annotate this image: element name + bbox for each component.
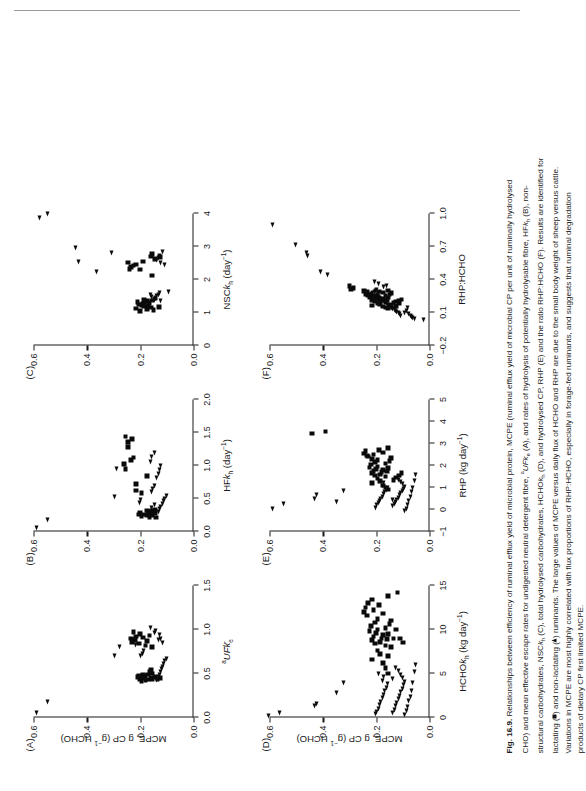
data-point-non-lactating <box>410 680 414 685</box>
y-tick-label: 0.2 <box>371 539 381 552</box>
data-point-non-lactating <box>390 676 394 681</box>
data-point-non-lactating <box>141 648 145 653</box>
figure-caption: Fig. 16.9. Relationships between efficie… <box>503 53 586 753</box>
rotated-figure: (A)0.00.20.40.60.00.51.01.5aUF̄k̄eMCPE, … <box>17 20 517 771</box>
data-point-non-lactating <box>270 506 274 511</box>
x-tick-label: 1.0 <box>201 623 211 636</box>
x-tick-label: 2 <box>201 276 211 281</box>
x-tick <box>429 344 434 345</box>
y-tick-label: 0.2 <box>371 353 381 366</box>
x-tick-label: 0.5 <box>201 667 211 680</box>
y-tick-label: 0.6 <box>28 353 38 366</box>
data-point-non-lactating <box>160 640 164 645</box>
x-axis-label-b: HFkh (day−1) <box>219 399 233 531</box>
data-point-non-lactating <box>109 250 113 255</box>
x-tick-label: 4 <box>437 418 447 423</box>
caption-line-2: CHO) and mean effective escape rates for… <box>520 185 529 753</box>
x-tick-label: −0.2 <box>437 336 447 354</box>
data-point-lactating <box>385 671 390 676</box>
data-point-lactating <box>148 667 153 672</box>
data-point-non-lactating <box>314 493 318 498</box>
data-point-lactating <box>369 657 374 662</box>
data-point-lactating <box>383 665 388 670</box>
data-point-non-lactating <box>94 269 98 274</box>
data-point-lactating <box>375 457 380 462</box>
data-point-lactating <box>385 593 390 598</box>
data-point-non-lactating <box>266 713 270 718</box>
data-point-lactating <box>149 644 154 649</box>
data-point-non-lactating <box>162 262 166 267</box>
x-tick <box>193 464 198 465</box>
x-tick <box>193 398 198 399</box>
data-point-non-lactating <box>398 313 402 318</box>
data-point-non-lactating <box>148 459 152 464</box>
data-point-non-lactating <box>405 305 409 310</box>
data-point-non-lactating <box>405 704 409 709</box>
data-point-lactating <box>375 464 380 469</box>
panel-c: (C)0.00.20.40.601234NSCkh (day−1) <box>25 201 243 379</box>
data-point-lactating <box>121 461 126 466</box>
data-point-non-lactating <box>412 669 416 674</box>
y-axis-line <box>269 344 429 345</box>
x-tick <box>193 716 198 717</box>
data-point-non-lactating <box>158 260 162 265</box>
x-tick <box>429 530 434 531</box>
caption-line-4: lactating () and non-lactating () rumina… <box>550 166 559 753</box>
x-axis-label-d: HCHOkh (kg day−1) <box>455 585 469 717</box>
data-point-non-lactating <box>409 688 413 693</box>
data-point-lactating <box>380 660 385 665</box>
y-tick <box>193 531 194 536</box>
data-point-lactating <box>144 473 149 478</box>
y-tick-label: 0.0 <box>424 353 434 366</box>
x-axis-line <box>192 585 193 717</box>
y-tick-label: 0.0 <box>188 353 198 366</box>
x-tick-label: 5 <box>437 396 447 401</box>
panel-d: (D)0.00.20.40.6051015HCHOkh (kg day−1)MC… <box>261 573 479 751</box>
data-point-non-lactating <box>148 292 152 297</box>
data-point-lactating <box>385 288 390 293</box>
x-tick <box>429 628 434 629</box>
data-point-lactating <box>133 306 138 311</box>
data-point-non-lactating <box>166 289 170 294</box>
panel-label-a: (A) <box>23 738 34 751</box>
data-point-non-lactating <box>413 662 417 667</box>
figure-number: Fig. 16.9. <box>504 718 513 753</box>
data-point-lactating <box>376 602 381 607</box>
x-tick-label: 1 <box>437 484 447 489</box>
y-axis-line <box>33 716 193 717</box>
data-point-non-lactating <box>396 477 400 482</box>
x-tick <box>193 212 198 213</box>
data-point-lactating <box>377 651 382 656</box>
data-point-non-lactating <box>281 501 285 506</box>
data-point-non-lactating <box>385 681 389 686</box>
y-tick <box>86 345 87 350</box>
x-tick-label: 1.5 <box>201 579 211 592</box>
x-tick-label: 3 <box>437 440 447 445</box>
x-axis-label-e: RHP (kg day−1) <box>455 399 467 531</box>
x-tick <box>193 431 198 432</box>
y-tick <box>376 345 377 350</box>
data-point-lactating <box>375 616 380 621</box>
data-point-non-lactating <box>114 466 118 471</box>
data-point-non-lactating <box>152 502 156 507</box>
data-point-lactating <box>139 679 144 684</box>
data-point-lactating <box>135 299 140 304</box>
plot-area-a: 0.00.20.40.60.00.51.01.5aUF̄k̄eMCPE, g C… <box>33 585 193 717</box>
y-tick <box>376 531 377 536</box>
data-point-lactating <box>133 262 138 267</box>
data-point-non-lactating <box>318 269 322 274</box>
data-point-lactating <box>125 260 130 265</box>
legend-triangle-marker <box>551 638 556 642</box>
plot-area-c: 0.00.20.40.601234NSCkh (day−1) <box>33 213 193 345</box>
x-axis-label-f: RHP:HCHO <box>455 213 466 345</box>
y-tick-label: 0.6 <box>264 539 274 552</box>
data-point-lactating <box>131 629 136 634</box>
data-point-lactating <box>149 251 154 256</box>
x-tick-label: −1 <box>437 526 447 536</box>
caption-line-3: structural carbohydrates, NSCkh (C), tot… <box>535 157 544 753</box>
data-point-non-lactating <box>148 625 152 630</box>
x-tick <box>193 497 198 498</box>
y-tick <box>269 531 270 536</box>
y-tick-label: 0.6 <box>264 353 274 366</box>
